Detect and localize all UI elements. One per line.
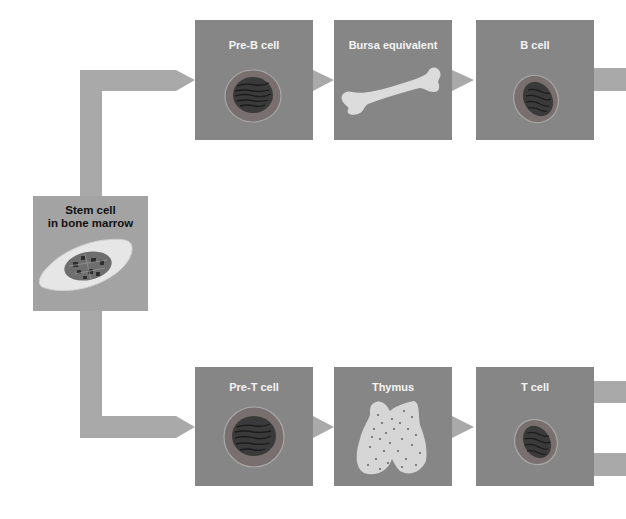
arrow-thymus-to-t [452,416,474,438]
arrow-to-pre-b [80,70,195,91]
stem-cell-box: Stem cell in bone marrow [33,196,148,311]
b-cell-box: B cell [476,20,594,140]
arrow-pre-t-to-thymus [313,416,334,438]
pre-b-cell-box: Pre-B cell [195,20,313,140]
arrow-pre-b-to-bursa [313,70,334,91]
bursa-equivalent-box: Bursa equivalent [334,20,452,140]
arrow-to-pre-t [80,416,195,438]
cell-icon [195,367,313,486]
t-cell-exit-bar-1 [594,381,626,403]
arrow-bursa-to-b [452,70,474,91]
cell-icon [476,367,594,486]
t-cell-box: T cell [476,367,594,486]
thymus-box: Thymus [334,367,452,486]
stem-cell-icon [33,196,148,311]
pre-t-cell-box: Pre-T cell [195,367,313,486]
cell-icon [476,20,594,140]
thymus-icon [334,367,452,486]
t-cell-exit-bar-2 [594,453,626,476]
cell-icon [195,20,313,140]
b-cell-exit-bar [594,68,626,91]
bone-icon [334,20,452,140]
